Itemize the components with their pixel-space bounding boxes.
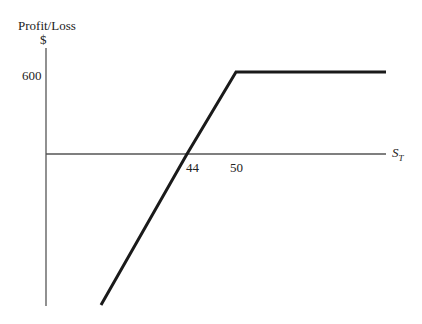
y-tick-600: 600 [22, 69, 42, 82]
y-axis-unit: $ [40, 33, 47, 46]
y-axis-title: Profit/Loss [18, 19, 76, 32]
x-axis-title: ST [392, 146, 404, 163]
profit-loss-line [101, 72, 386, 305]
x-axis-title-sub: T [399, 153, 404, 163]
x-tick-44: 44 [186, 161, 199, 174]
x-tick-50: 50 [230, 161, 243, 174]
payoff-chart [0, 0, 422, 324]
